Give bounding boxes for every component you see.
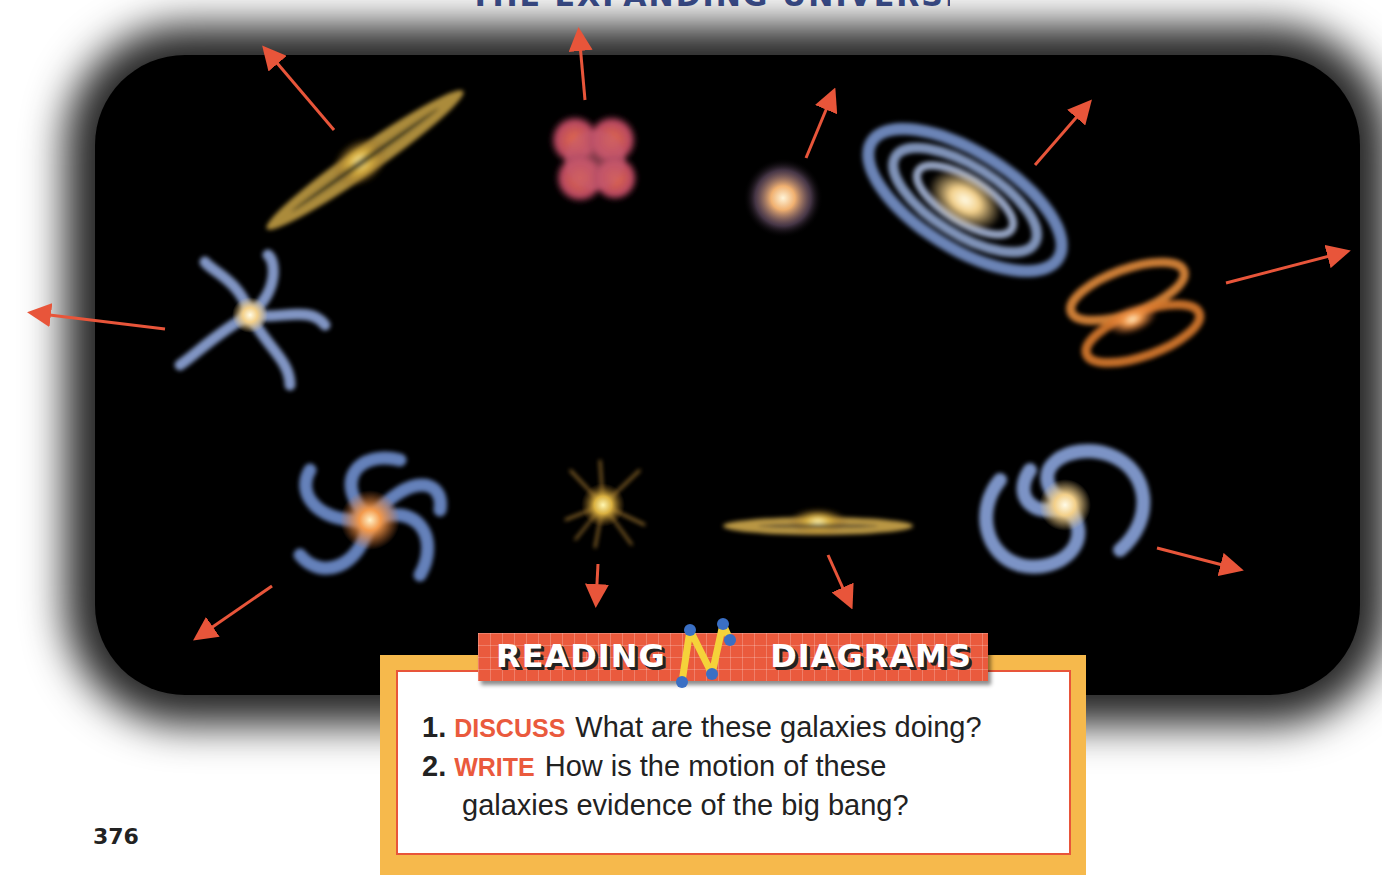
question-text: How is the motion of these xyxy=(545,750,887,782)
question-1: 1.DISCUSSWhat are these galaxies doing? xyxy=(422,711,982,744)
line-graph-logo-icon xyxy=(660,610,750,690)
page-number: 376 xyxy=(93,824,139,849)
question-2-continuation: galaxies evidence of the big bang? xyxy=(462,789,909,822)
arrow-icon xyxy=(1157,548,1238,569)
thin-disk-galaxy xyxy=(723,508,913,536)
question-number: 1. xyxy=(422,711,446,743)
arrow-icon xyxy=(579,33,585,100)
banner-label-diagrams: DIAGRAMS xyxy=(770,637,972,675)
ringed-orange-galaxy xyxy=(1064,250,1207,375)
irregular-red-galaxy xyxy=(549,114,639,204)
arrow-icon xyxy=(266,50,334,130)
expansion-arrows xyxy=(33,33,1345,637)
arrow-icon xyxy=(828,555,850,604)
elliptical-galaxy xyxy=(743,158,823,238)
question-number: 2. xyxy=(422,750,446,782)
question-2: 2.WRITEHow is the motion of these xyxy=(422,750,886,783)
large-spiral-galaxy xyxy=(846,101,1083,299)
arrow-icon xyxy=(33,313,165,329)
question-text: What are these galaxies doing? xyxy=(575,711,981,743)
banner-label-reading: READING xyxy=(496,637,666,675)
question-keyword: WRITE xyxy=(454,753,535,781)
arrow-icon xyxy=(198,586,272,637)
arrow-icon xyxy=(1226,252,1345,283)
arrow-icon xyxy=(596,564,598,602)
question-keyword: DISCUSS xyxy=(454,714,565,742)
edge-on-disk-galaxy xyxy=(259,80,472,241)
arrow-icon xyxy=(1035,104,1088,165)
arrow-icon xyxy=(806,93,833,158)
